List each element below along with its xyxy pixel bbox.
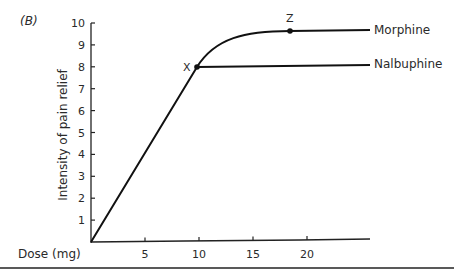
y-tick-label: 9 [78,39,85,52]
y-tick-label: 4 [78,148,85,161]
y-axis: 12345678910 [71,17,95,243]
x-tick-label: 15 [246,248,260,261]
morphine-curve [91,30,370,242]
x-axis: 5101520 [91,236,370,261]
x-tick-label: 10 [192,248,206,261]
y-tick-label: 10 [71,17,85,30]
dose-response-chart: (B) 12345678910 Intensity of pain relief… [0,0,454,277]
panel-label: (B) [20,14,38,28]
y-tick-label: 6 [78,105,85,118]
point-z-marker [287,28,293,34]
legend-nalbuphine: Nalbuphine [374,57,442,71]
y-tick-label: 1 [78,214,85,227]
point-x-marker [194,64,200,70]
y-axis-label: Intensity of pain relief [56,68,70,200]
x-tick-label: 5 [142,248,149,261]
y-tick-label: 5 [78,127,85,140]
x-axis-label: Dose (mg) [18,247,81,261]
y-tick-label: 7 [78,83,85,96]
point-x-label: X [183,61,191,74]
y-tick-label: 2 [78,192,85,205]
x-tick-label: 20 [300,248,314,261]
point-z-label: Z [286,12,294,25]
y-tick-label: 3 [78,170,85,183]
nalbuphine-curve [197,65,370,67]
y-tick-label: 8 [78,61,85,74]
legend-morphine: Morphine [374,23,430,37]
